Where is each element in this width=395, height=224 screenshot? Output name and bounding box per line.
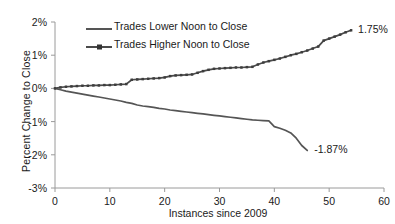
data-point-marker	[131, 79, 134, 82]
data-point-marker	[141, 78, 144, 81]
x-tick-label: 40	[268, 196, 280, 207]
data-point-marker	[191, 73, 194, 76]
x-tick-label: 10	[104, 196, 116, 207]
y-axis-tickmarks	[51, 22, 55, 188]
data-point-marker	[224, 67, 227, 70]
y-axis-title: Percent Change to Close	[20, 36, 32, 186]
x-tick-label: 30	[214, 196, 226, 207]
data-point-marker	[240, 66, 243, 69]
data-point-marker	[251, 66, 254, 69]
data-point-marker	[65, 85, 68, 88]
x-tick-label: 0	[52, 196, 58, 207]
data-point-marker	[246, 66, 249, 69]
data-point-marker	[207, 69, 210, 72]
data-point-marker	[317, 45, 320, 48]
data-point-marker	[92, 84, 95, 87]
data-point-marker	[333, 35, 336, 38]
data-point-marker	[344, 31, 347, 34]
data-point-marker	[295, 53, 298, 56]
data-point-marker	[98, 84, 101, 87]
data-point-marker	[125, 83, 128, 86]
legend-item-trades-lower: Trades Lower Noon to Close	[86, 19, 250, 34]
data-point-marker	[109, 84, 112, 87]
x-axis-title: Instances since 2009	[53, 207, 383, 219]
data-point-marker	[202, 70, 205, 73]
chart-legend: Trades Lower Noon to Close Trades Higher…	[86, 19, 250, 55]
data-point-marker	[158, 77, 161, 80]
legend-swatch-line-marker	[86, 39, 112, 51]
data-point-marker	[70, 85, 73, 88]
data-point-marker	[290, 54, 293, 57]
data-point-marker	[152, 77, 155, 80]
data-point-marker	[257, 63, 260, 66]
data-point-marker	[180, 74, 183, 77]
data-point-marker	[169, 75, 172, 78]
data-point-label: -1.87%	[314, 144, 347, 155]
data-point-marker	[268, 60, 271, 63]
data-point-marker	[229, 67, 232, 70]
data-point-marker	[163, 76, 166, 79]
y-tick-label: 2%	[0, 17, 47, 28]
legend-swatch-line-plain	[86, 21, 112, 33]
data-point-marker	[279, 57, 282, 60]
data-point-marker	[59, 86, 62, 89]
data-point-marker	[213, 68, 216, 71]
data-point-marker	[301, 51, 304, 54]
data-point-marker	[136, 78, 139, 81]
x-tick-label: 60	[378, 196, 390, 207]
data-point-marker	[120, 83, 123, 86]
data-point-marker	[339, 33, 342, 36]
data-point-marker	[87, 84, 90, 87]
x-axis-tickmarks	[55, 188, 384, 192]
series-line-trades-lower	[55, 88, 307, 150]
data-point-marker	[76, 85, 79, 88]
data-point-marker	[273, 59, 276, 62]
legend-item-trades-higher: Trades Higher Noon to Close	[86, 37, 250, 52]
legend-label-trades-lower: Trades Lower Noon to Close	[114, 21, 247, 32]
data-point-marker	[322, 39, 325, 42]
data-point-marker	[196, 72, 199, 75]
data-point-marker	[235, 66, 238, 69]
data-point-marker	[311, 47, 314, 50]
data-point-marker	[103, 84, 106, 87]
data-point-marker	[114, 84, 117, 87]
data-point-marker	[306, 49, 309, 52]
data-point-marker	[81, 84, 84, 87]
x-tick-label: 20	[159, 196, 171, 207]
data-point-label: 1.75%	[358, 24, 388, 35]
data-point-marker	[262, 61, 265, 64]
data-point-marker	[185, 74, 188, 77]
data-point-marker	[147, 78, 150, 81]
data-point-marker	[218, 67, 221, 70]
x-tick-label: 50	[323, 196, 335, 207]
chart-figure: 2%1%0%-1%-2%-3% 0102030405060 Percent Ch…	[0, 0, 395, 224]
data-point-marker	[54, 87, 57, 90]
data-point-marker	[350, 29, 353, 32]
legend-label-trades-higher: Trades Higher Noon to Close	[114, 39, 250, 50]
data-point-marker	[328, 37, 331, 40]
data-point-marker	[284, 56, 287, 59]
data-point-marker	[174, 74, 177, 77]
